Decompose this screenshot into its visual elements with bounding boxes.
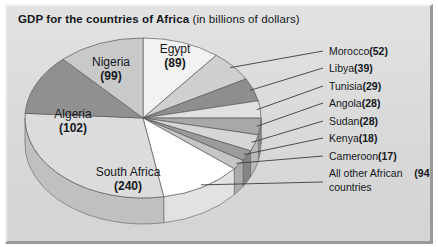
chart-title-unit: (in billions of dollars) [192, 13, 299, 25]
leader-line [250, 68, 323, 90]
legend-item: Tunisia (29) [329, 77, 433, 95]
legend-item: Kenya (18) [329, 130, 433, 148]
legend-item-value: (17) [378, 150, 397, 162]
legend-item-value: (28) [359, 115, 378, 127]
legend-item: Angola (28) [329, 95, 433, 113]
legend-item-value: (28) [362, 97, 381, 109]
legend-item: Morocco (52) [329, 42, 433, 60]
legend-item: All other African countries (94) [329, 165, 433, 197]
chart-panel: GDP for the countries of Africa (in bill… [5, 4, 433, 244]
slice-value: (89) [164, 56, 185, 70]
legend-item-value: (39) [354, 62, 373, 74]
legend-item-label: Angola [329, 97, 362, 109]
legend-item-label: Sudan [329, 115, 359, 127]
legend: Morocco (52)Libya (39)Tunisia (29)Angola… [329, 42, 433, 197]
legend-item: Libya (39) [329, 60, 433, 78]
legend-item: Cameroon (17) [329, 147, 433, 165]
legend-item-label: All other African countries [329, 166, 414, 195]
slice-label: South Africa [96, 165, 161, 179]
leader-line [230, 51, 323, 68]
slice-label: Algeria [54, 107, 92, 121]
legend-item-label: Morocco [329, 45, 369, 57]
slice-value: (240) [114, 179, 142, 193]
legend-item-value: (29) [362, 80, 381, 92]
legend-item-label: Cameroon [329, 150, 378, 162]
legend-item-label: Libya [329, 62, 354, 74]
legend-item-value: (18) [359, 132, 378, 144]
legend-item-label: Kenya [329, 132, 359, 144]
chart-frame: GDP for the countries of Africa (in bill… [0, 0, 438, 247]
slice-label: Nigeria [92, 55, 130, 69]
legend-item: Sudan (28) [329, 112, 433, 130]
legend-item-value: (52) [369, 45, 388, 57]
slice-value: (99) [100, 69, 121, 83]
legend-item-value: (94) [414, 166, 433, 181]
chart-title-main: GDP for the countries of Africa [18, 13, 189, 25]
legend-item-label: Tunisia [329, 80, 362, 92]
slice-label: Egypt [160, 42, 191, 56]
slice-value: (102) [59, 121, 87, 135]
page-title: GDP for the countries of Africa (in bill… [18, 13, 300, 25]
